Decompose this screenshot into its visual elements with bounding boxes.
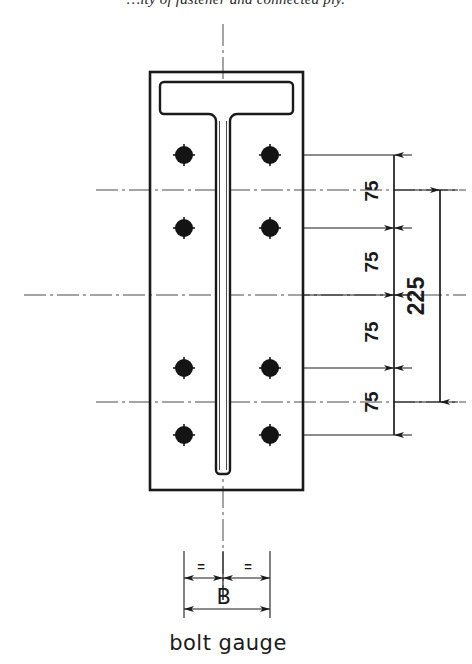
bolt-r4-right <box>259 424 281 446</box>
bolt-r4-left <box>173 424 195 446</box>
equal-mark-left: = <box>197 559 205 574</box>
figure-root: …ity of fastener and connected ply. <box>0 0 472 664</box>
bolt-r1-left <box>173 144 195 166</box>
pitch-label-4: 75 <box>361 391 382 413</box>
bolt-r2-right <box>259 217 281 239</box>
bolt-r1-right <box>259 144 281 166</box>
pitch-dimension-chain <box>303 155 412 435</box>
figure-caption: …ity of fastener and connected ply. <box>0 0 472 8</box>
bolt-gauge-label: B <box>217 585 232 609</box>
bolt-r3-left <box>173 357 195 379</box>
overall-depth-label: 225 <box>403 277 429 316</box>
pitch-label-2: 75 <box>361 251 382 273</box>
pitch-label-1: 75 <box>361 180 382 202</box>
pitch-label-3: 75 <box>361 321 382 343</box>
equal-mark-right: = <box>244 559 252 574</box>
technical-drawing-canvas: 75 75 75 75 225 = = B <box>0 0 472 664</box>
bolt-r3-right <box>259 357 281 379</box>
bolt-gauge-caption: bolt gauge <box>169 631 287 655</box>
bolt-r2-left <box>173 217 195 239</box>
